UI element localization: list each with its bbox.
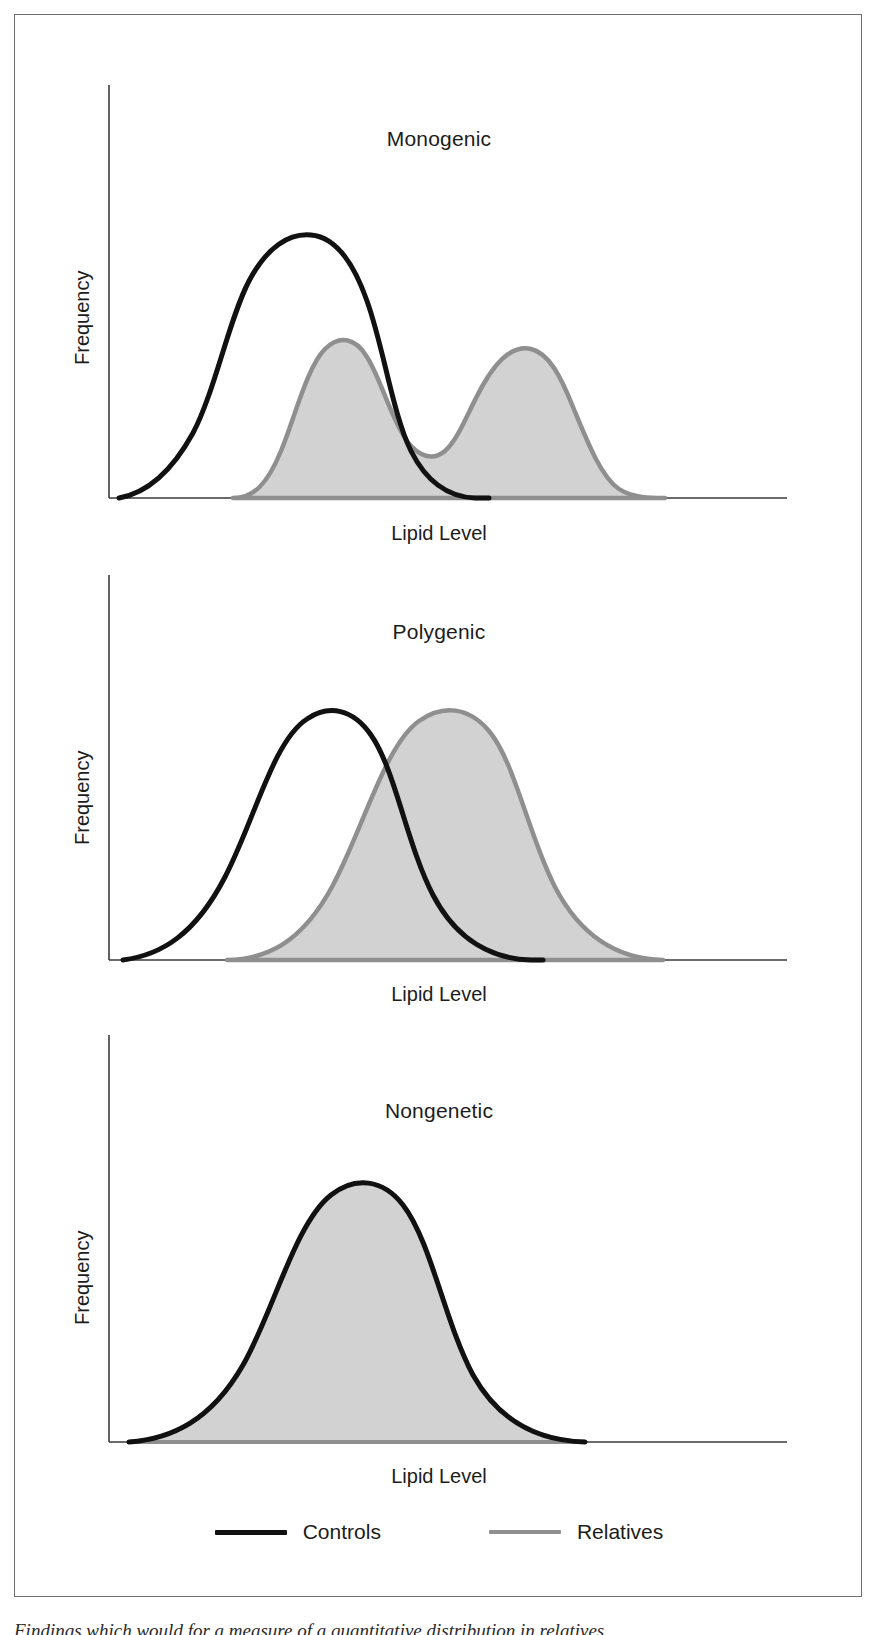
- plot-area-monogenic: [15, 15, 863, 515]
- legend-label-relatives: Relatives: [577, 1520, 663, 1544]
- nongenetic-svg: [15, 995, 863, 1465]
- legend-swatch-controls-icon: [215, 1530, 287, 1535]
- panel-monogenic: Monogenic Frequency Lipid Level: [15, 15, 863, 545]
- legend-item-relatives: Relatives: [489, 1520, 663, 1544]
- figure-legend: Controls Relatives: [15, 1509, 863, 1555]
- panel-nongenetic: Nongenetic Frequency Lipid Level: [15, 995, 863, 1495]
- legend-swatch-relatives-icon: [489, 1530, 561, 1534]
- relatives-curve-monogenic: [233, 340, 665, 498]
- monogenic-svg: [15, 15, 863, 515]
- plot-area-polygenic: [15, 545, 863, 975]
- x-axis-label-monogenic: Lipid Level: [15, 522, 863, 545]
- legend-label-controls: Controls: [303, 1520, 381, 1544]
- figure-frame: Monogenic Frequency Lipid Level Polygeni…: [14, 14, 862, 1597]
- legend-item-controls: Controls: [215, 1520, 381, 1544]
- plot-area-nongenetic: [15, 995, 863, 1465]
- relatives-curve-polygenic: [227, 710, 663, 960]
- polygenic-svg: [15, 545, 863, 975]
- panel-polygenic: Polygenic Frequency Lipid Level: [15, 545, 863, 995]
- x-axis-label-nongenetic: Lipid Level: [15, 1465, 863, 1488]
- relatives-curve-nongenetic: [129, 1183, 585, 1442]
- figure-caption: Findings which would for a measure of a …: [14, 1620, 862, 1635]
